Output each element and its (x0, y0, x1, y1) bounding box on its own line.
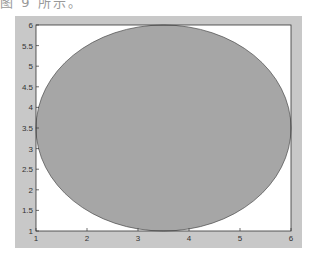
y-tick-label: 1 (29, 227, 34, 236)
x-tick-label: 1 (34, 234, 39, 243)
chart: 123456 11.522.533.544.555.56 (0, 0, 314, 262)
y-tick-label: 5 (29, 62, 34, 71)
y-tick-label: 1.5 (22, 206, 34, 215)
x-tick-label: 6 (289, 234, 294, 243)
filled-ellipse (36, 25, 291, 231)
x-tick-label: 5 (238, 234, 243, 243)
y-tick-label: 6 (29, 21, 34, 30)
y-tick-label: 4.5 (22, 83, 34, 92)
y-tick-label: 3.5 (22, 124, 34, 133)
x-tick-label: 2 (85, 234, 90, 243)
x-tick-label: 4 (187, 234, 192, 243)
y-tick-label: 2.5 (22, 165, 34, 174)
y-tick-label: 4 (29, 103, 34, 112)
x-tick-label: 3 (136, 234, 141, 243)
y-tick-label: 2 (29, 186, 34, 195)
y-tick-label: 3 (29, 145, 34, 154)
y-tick-label: 5.5 (22, 42, 34, 51)
